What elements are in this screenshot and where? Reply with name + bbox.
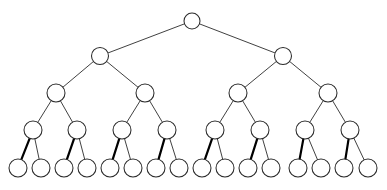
tree-node-leaf — [32, 159, 50, 177]
tree-node-leaf — [101, 159, 119, 177]
tree-node-root — [184, 13, 200, 29]
tree-node — [113, 121, 131, 139]
tree-node-leaf — [55, 159, 73, 177]
tree-node — [319, 84, 337, 102]
tree-node-leaf — [239, 159, 257, 177]
tree-node — [158, 121, 176, 139]
tree-node — [341, 121, 359, 139]
tree-node — [68, 121, 86, 139]
tree-node-leaf — [193, 159, 211, 177]
tree-canvas — [0, 0, 387, 190]
tree-node — [229, 84, 247, 102]
tree-node-leaf — [124, 159, 142, 177]
tree-node — [296, 121, 314, 139]
tree-node-leaf — [9, 159, 27, 177]
tree-node-leaf — [216, 159, 234, 177]
tree-node — [251, 121, 269, 139]
tree-node-leaf — [359, 159, 377, 177]
tree-node — [206, 121, 224, 139]
tree-node — [24, 121, 42, 139]
tree-node-leaf — [170, 159, 188, 177]
tree-node — [275, 48, 292, 65]
tree-node-leaf — [312, 159, 330, 177]
tree-node-leaf — [147, 159, 165, 177]
tree-node — [92, 48, 109, 65]
binary-tree-diagram — [0, 0, 387, 190]
tree-node-leaf — [289, 159, 307, 177]
tree-node-leaf — [262, 159, 280, 177]
tree-node — [136, 84, 154, 102]
tree-node — [47, 84, 65, 102]
tree-node-leaf — [335, 159, 353, 177]
tree-node-leaf — [78, 159, 96, 177]
